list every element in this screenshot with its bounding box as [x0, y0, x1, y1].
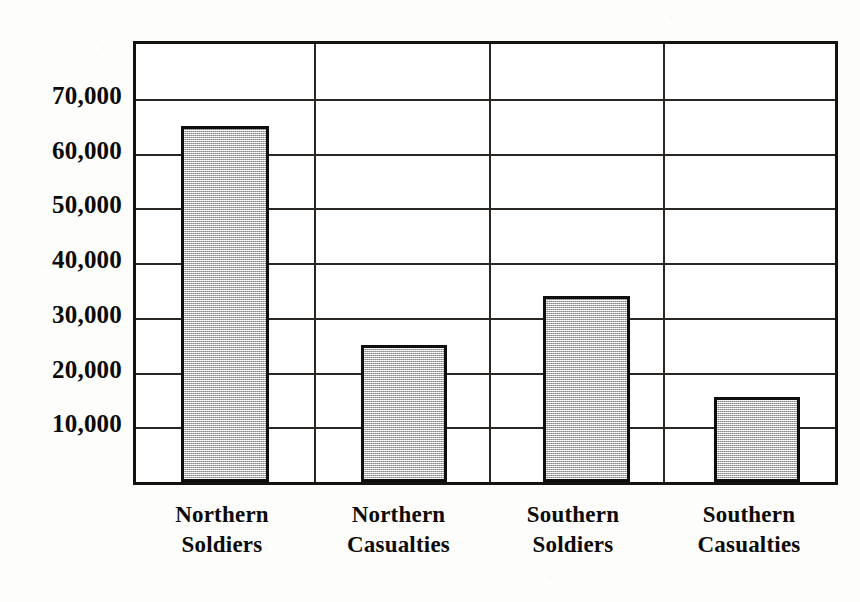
y-axis-tick-40000: 40,000 — [2, 247, 122, 272]
bar-southern-casualties — [714, 397, 800, 482]
x-axis-tick-northern-soldiers: Northern Soldiers — [133, 500, 311, 560]
y-axis-tick-10000: 10,000 — [2, 411, 122, 436]
x-axis-tick-label-group: Northern Soldiers Northern Casualties So… — [133, 500, 838, 580]
y-axis-tick-70000: 70,000 — [2, 83, 122, 108]
x-axis-tick-southern-soldiers-line1: Southern — [486, 500, 660, 530]
y-axis-tick-30000: 30,000 — [2, 302, 122, 327]
x-axis-tick-southern-casualties: Southern Casualties — [660, 500, 838, 560]
y-axis-tick-50000: 50,000 — [2, 192, 122, 217]
x-axis-tick-northern-soldiers-line2: Soldiers — [133, 530, 311, 560]
x-axis-tick-southern-soldiers: Southern Soldiers — [486, 500, 660, 560]
bar-chart-figure: 70,000 60,000 50,000 40,000 30,000 20,00… — [0, 0, 860, 602]
x-axis-tick-southern-casualties-line2: Casualties — [660, 530, 838, 560]
bar-northern-casualties — [361, 345, 447, 482]
x-axis-tick-northern-casualties: Northern Casualties — [311, 500, 486, 560]
gridline-v-1 — [314, 44, 316, 482]
gridline-h-70000 — [136, 99, 835, 101]
x-axis-tick-northern-casualties-line2: Casualties — [311, 530, 486, 560]
gridline-v-2 — [489, 44, 491, 482]
y-axis-tick-20000: 20,000 — [2, 357, 122, 382]
plot-area — [133, 41, 838, 485]
x-axis-tick-southern-casualties-line1: Southern — [660, 500, 838, 530]
gridline-v-3 — [663, 44, 665, 482]
x-axis-tick-northern-casualties-line1: Northern — [311, 500, 486, 530]
y-axis-tick-60000: 60,000 — [2, 138, 122, 163]
bar-northern-soldiers — [181, 126, 269, 482]
x-axis-tick-northern-soldiers-line1: Northern — [133, 500, 311, 530]
bar-southern-soldiers — [543, 296, 630, 482]
y-axis-tick-label-group: 70,000 60,000 50,000 40,000 30,000 20,00… — [0, 0, 122, 602]
x-axis-tick-southern-soldiers-line2: Soldiers — [486, 530, 660, 560]
